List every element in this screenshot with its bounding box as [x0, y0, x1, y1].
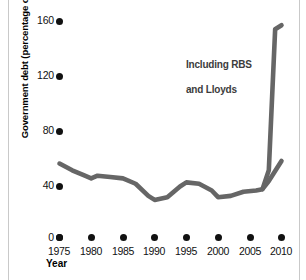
chart-figure: Government debt (percentage of GDP) 160 …: [0, 0, 306, 280]
chart-plot-area: [0, 0, 306, 280]
data-line-excluding-rbs: [60, 161, 282, 200]
